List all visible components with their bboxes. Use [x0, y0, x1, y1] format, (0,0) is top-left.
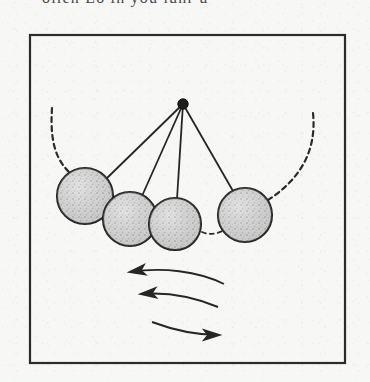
arc-left-dashed	[52, 108, 69, 172]
string-3	[177, 104, 183, 199]
pivot-point	[178, 99, 188, 109]
pendulum-figure	[0, 0, 370, 382]
motion-arrow-3	[152, 322, 219, 335]
motion-arrow-2	[141, 294, 218, 307]
string-4	[183, 104, 233, 191]
arc-right-dashed	[268, 113, 314, 200]
motion-arrow-1	[130, 270, 224, 284]
pendulum-bob-3	[149, 198, 201, 250]
scanned-figure-page: ollen Lo in you lunr u	[0, 0, 370, 382]
string-2	[142, 104, 183, 196]
pendulum-bob-4	[218, 188, 272, 242]
string-1	[106, 104, 183, 179]
